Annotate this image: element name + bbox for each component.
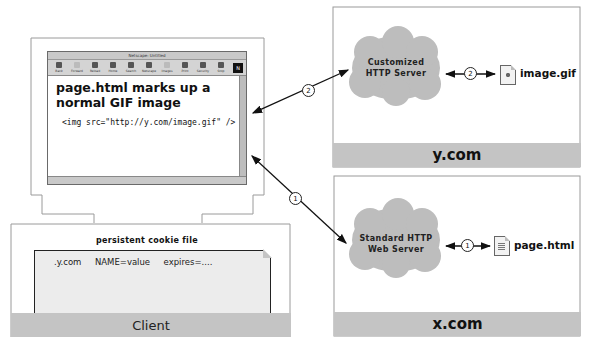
img-tag-code: <img src="http://y.com/image.gif" />	[62, 118, 235, 127]
step-1-badge-connection: 1	[289, 192, 302, 205]
netscape-button[interactable]: Netscape	[142, 62, 156, 74]
forward-button[interactable]: Forward	[70, 62, 84, 74]
page-heading: page.html marks up a normal GIF image	[56, 80, 232, 110]
cookie-file-label: persistent cookie file	[96, 236, 198, 245]
xcom-domain-bar: x.com	[334, 312, 581, 336]
back-icon	[56, 62, 62, 68]
browser-toolbar: Back Forward Reload Home Search Netscape…	[48, 60, 246, 76]
images-button[interactable]: Images	[160, 62, 174, 74]
cookie-entry: .y.com NAME=value expires=....	[54, 257, 212, 267]
ycom-server-label: Customized HTTP Server	[356, 57, 436, 79]
image-markup-line: <img src="http://y.com/image.gif" />	[56, 115, 232, 129]
client-bar: Client	[11, 313, 291, 337]
browser-content: page.html marks up a normal GIF image <i…	[48, 76, 240, 176]
images-icon	[164, 62, 170, 68]
netscape-icon	[146, 62, 152, 68]
step-1-badge-xcom: 1	[461, 239, 474, 252]
print-button[interactable]: Print	[178, 62, 192, 74]
xcom-file-label: page.html	[514, 239, 574, 251]
html-file-icon	[494, 236, 510, 256]
browser-scrollbar[interactable]	[239, 76, 246, 176]
security-icon	[200, 62, 206, 68]
step-2-badge-ycom: 2	[464, 67, 477, 80]
reload-icon	[92, 62, 98, 68]
stop-button[interactable]: Stop	[214, 62, 228, 74]
gif-file-icon	[500, 65, 516, 85]
reload-button[interactable]: Reload	[88, 62, 102, 74]
home-icon	[110, 62, 116, 68]
arrow-step-2	[253, 70, 348, 113]
security-button[interactable]: Security	[196, 62, 210, 74]
xcom-server-label: Standard HTTP Web Server	[352, 233, 440, 255]
ycom-domain-bar: y.com	[333, 143, 581, 167]
print-icon	[182, 62, 188, 68]
browser-window: Netscape: Untitled Back Forward Reload H…	[47, 51, 247, 185]
search-icon	[128, 62, 134, 68]
ycom-file-label: image.gif	[520, 67, 576, 79]
forward-icon	[74, 62, 80, 68]
page-fold-icon	[263, 249, 272, 258]
step-2-badge-connection: 2	[302, 84, 315, 97]
cookie-file: .y.com NAME=value expires=....	[34, 250, 271, 314]
netscape-logo: N	[233, 63, 243, 73]
browser-statusbar	[48, 176, 246, 184]
home-button[interactable]: Home	[106, 62, 120, 74]
browser-title: Netscape: Untitled	[48, 52, 246, 60]
stop-icon	[218, 62, 224, 68]
back-button[interactable]: Back	[52, 62, 66, 74]
search-button[interactable]: Search	[124, 62, 138, 74]
